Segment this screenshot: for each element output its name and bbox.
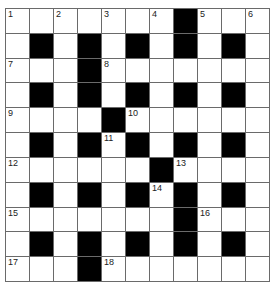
crossword-cell[interactable]	[198, 83, 221, 107]
crossword-cell[interactable]	[102, 34, 125, 58]
crossword-cell[interactable]: 6	[246, 9, 269, 33]
crossword-cell[interactable]: 10	[126, 108, 149, 132]
crossword-cell[interactable]	[126, 208, 149, 232]
crossword-cell[interactable]	[246, 34, 269, 58]
crossword-cell[interactable]	[102, 83, 125, 107]
crossword-cell[interactable]	[150, 83, 173, 107]
crossword-cell[interactable]	[78, 108, 101, 132]
crossword-cell[interactable]	[222, 257, 245, 281]
crossword-cell[interactable]	[6, 183, 29, 207]
crossword-cell[interactable]	[30, 108, 53, 132]
crossword-cell[interactable]	[54, 34, 77, 58]
crossword-cell[interactable]	[198, 34, 221, 58]
crossword-cell[interactable]	[198, 232, 221, 256]
black-square	[78, 183, 101, 207]
crossword-cell[interactable]	[246, 183, 269, 207]
crossword-cell[interactable]	[246, 232, 269, 256]
crossword-cell[interactable]	[30, 158, 53, 182]
black-square	[150, 158, 173, 182]
crossword-cell[interactable]	[222, 158, 245, 182]
black-square	[126, 34, 149, 58]
crossword-cell[interactable]	[222, 59, 245, 83]
crossword-cell[interactable]	[150, 257, 173, 281]
crossword-cell[interactable]	[174, 59, 197, 83]
crossword-cell[interactable]: 9	[6, 108, 29, 132]
crossword-cell[interactable]: 16	[198, 208, 221, 232]
crossword-cell[interactable]: 8	[102, 59, 125, 83]
crossword-cell[interactable]	[6, 34, 29, 58]
crossword-cell[interactable]	[222, 108, 245, 132]
crossword-cell[interactable]	[54, 108, 77, 132]
black-square	[78, 34, 101, 58]
crossword-cell[interactable]	[150, 59, 173, 83]
crossword-cell[interactable]	[54, 59, 77, 83]
black-square	[222, 133, 245, 157]
crossword-cell[interactable]	[126, 59, 149, 83]
crossword-cell[interactable]	[54, 183, 77, 207]
crossword-cell[interactable]	[54, 257, 77, 281]
crossword-cell[interactable]	[246, 208, 269, 232]
crossword-cell[interactable]	[246, 257, 269, 281]
crossword-cell[interactable]: 11	[102, 133, 125, 157]
crossword-cell[interactable]	[198, 108, 221, 132]
black-square	[222, 34, 245, 58]
clue-number: 10	[128, 109, 138, 118]
crossword-cell[interactable]	[222, 208, 245, 232]
crossword-cell[interactable]	[150, 208, 173, 232]
crossword-cell[interactable]	[246, 83, 269, 107]
crossword-cell[interactable]	[6, 83, 29, 107]
crossword-cell[interactable]: 13	[174, 158, 197, 182]
crossword-cell[interactable]	[150, 232, 173, 256]
clue-number: 4	[152, 10, 157, 19]
crossword-cell[interactable]: 1	[6, 9, 29, 33]
crossword-cell[interactable]	[246, 133, 269, 157]
crossword-cell[interactable]	[78, 9, 101, 33]
crossword-cell[interactable]	[102, 158, 125, 182]
crossword-cell[interactable]	[102, 208, 125, 232]
crossword-cell[interactable]	[126, 257, 149, 281]
crossword-cell[interactable]	[6, 232, 29, 256]
crossword-cell[interactable]	[198, 158, 221, 182]
crossword-cell[interactable]: 14	[150, 183, 173, 207]
crossword-cell[interactable]	[54, 133, 77, 157]
crossword-cell[interactable]	[246, 59, 269, 83]
crossword-cell[interactable]	[78, 208, 101, 232]
crossword-cell[interactable]	[54, 158, 77, 182]
crossword-cell[interactable]: 17	[6, 257, 29, 281]
crossword-cell[interactable]: 3	[102, 9, 125, 33]
crossword-cell[interactable]	[126, 9, 149, 33]
crossword-cell[interactable]	[54, 208, 77, 232]
crossword-cell[interactable]	[30, 59, 53, 83]
crossword-cell[interactable]	[102, 232, 125, 256]
crossword-cell[interactable]	[54, 83, 77, 107]
crossword-cell[interactable]	[246, 158, 269, 182]
crossword-cell[interactable]	[150, 133, 173, 157]
crossword-cell[interactable]	[198, 59, 221, 83]
crossword-cell[interactable]: 15	[6, 208, 29, 232]
crossword-cell[interactable]	[150, 34, 173, 58]
crossword-cell[interactable]: 4	[150, 9, 173, 33]
crossword-cell[interactable]	[198, 257, 221, 281]
crossword-cell[interactable]: 12	[6, 158, 29, 182]
crossword-cell[interactable]	[174, 257, 197, 281]
crossword-cell[interactable]	[126, 158, 149, 182]
crossword-cell[interactable]: 2	[54, 9, 77, 33]
crossword-cell[interactable]	[30, 208, 53, 232]
crossword-cell[interactable]	[78, 158, 101, 182]
crossword-cell[interactable]: 7	[6, 59, 29, 83]
crossword-cell[interactable]	[174, 108, 197, 132]
crossword-cell[interactable]	[198, 133, 221, 157]
crossword-cell[interactable]	[150, 108, 173, 132]
crossword-cell[interactable]	[54, 232, 77, 256]
crossword-cell[interactable]: 5	[198, 9, 221, 33]
black-square	[30, 34, 53, 58]
crossword-cell[interactable]: 18	[102, 257, 125, 281]
crossword-cell[interactable]	[246, 108, 269, 132]
crossword-cell[interactable]	[30, 9, 53, 33]
crossword-cell[interactable]	[30, 257, 53, 281]
crossword-cell[interactable]	[222, 9, 245, 33]
crossword-cell[interactable]	[198, 183, 221, 207]
crossword-cell[interactable]	[102, 183, 125, 207]
crossword-cell[interactable]	[6, 133, 29, 157]
black-square	[126, 83, 149, 107]
